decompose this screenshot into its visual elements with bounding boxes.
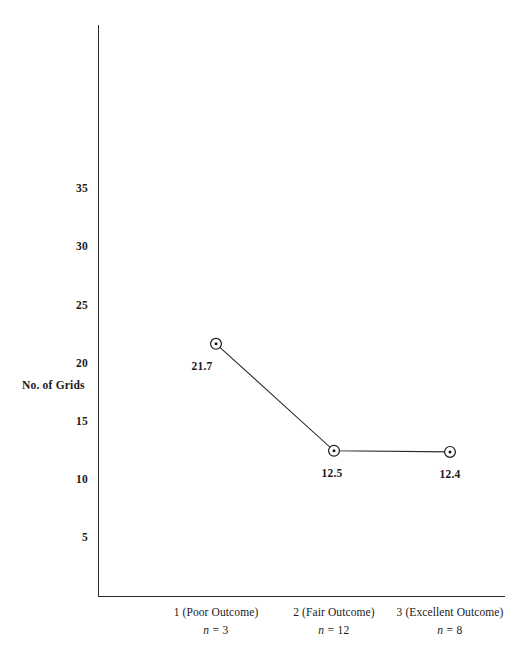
line-chart: No. of Grids 5101520253035 21.712.512.4 … xyxy=(0,0,531,657)
series-line xyxy=(216,344,450,452)
x-category-sample-size: n = 8 xyxy=(375,622,525,638)
sample-size-value: = 8 xyxy=(447,624,463,636)
data-point-value-3: 12.4 xyxy=(420,469,480,481)
data-point-value-2: 12.5 xyxy=(302,468,362,480)
data-point-markers xyxy=(211,338,456,457)
x-category-3: 3 (Excellent Outcome)n = 8 xyxy=(375,604,525,638)
sample-size-symbol: n xyxy=(437,624,443,636)
sample-size-value: = 3 xyxy=(213,624,229,636)
data-point-center-dot-3 xyxy=(449,450,452,453)
data-point-center-dot-1 xyxy=(215,342,218,345)
data-point-value-1: 21.7 xyxy=(172,361,232,373)
sample-size-value: = 12 xyxy=(328,624,350,636)
data-point-center-dot-2 xyxy=(333,449,336,452)
sample-size-symbol: n xyxy=(318,624,324,636)
sample-size-symbol: n xyxy=(203,624,209,636)
plot-area xyxy=(0,0,531,657)
x-category-name: 3 (Excellent Outcome) xyxy=(375,604,525,620)
